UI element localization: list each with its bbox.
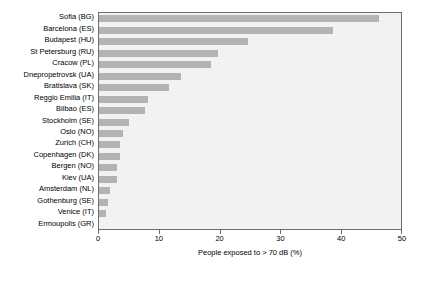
x-tick-label: 20 (215, 234, 223, 243)
bar (99, 119, 129, 126)
bar (99, 187, 110, 194)
bar (99, 176, 117, 183)
x-tick-label: 10 (155, 234, 163, 243)
bar (99, 73, 181, 80)
category-label: Budapest (HU) (0, 36, 94, 44)
category-label: Copenhagen (DK) (0, 151, 94, 159)
bar (99, 141, 120, 148)
category-label: Ermoupolis (GR) (0, 220, 94, 228)
bar (99, 96, 148, 103)
x-tick-label: 50 (398, 234, 406, 243)
x-tick-label: 40 (337, 234, 345, 243)
bar (99, 84, 169, 91)
category-label: Bilbao (ES) (0, 105, 94, 113)
category-label: Bergen (NO) (0, 162, 94, 170)
category-label: Venice (IT) (0, 208, 94, 216)
x-tick-label: 0 (96, 234, 100, 243)
x-tick-label: 30 (276, 234, 284, 243)
bar-chart: Sofia (BG)Barcelona (ES)Budapest (HU)St … (0, 0, 422, 286)
bar (99, 27, 333, 34)
category-label: Stockholm (SE) (0, 117, 94, 125)
category-label: St Petersburg (RU) (0, 48, 94, 56)
category-label: Sofia (BG) (0, 13, 94, 21)
category-label: Bratislava (SK) (0, 82, 94, 90)
bar (99, 15, 379, 22)
bars-layer (99, 13, 401, 229)
category-label: Barcelona (ES) (0, 25, 94, 33)
bar (99, 130, 123, 137)
bar (99, 38, 248, 45)
category-label: Zurich (CH) (0, 139, 94, 147)
x-axis-ticks: 01020304050 (98, 230, 402, 246)
bar (99, 61, 211, 68)
category-label: Kiev (UA) (0, 174, 94, 182)
category-label: Gothenburg (SE) (0, 197, 94, 205)
bar (99, 50, 218, 57)
bar (99, 210, 106, 217)
plot-area (98, 12, 402, 230)
category-axis-labels: Sofia (BG)Barcelona (ES)Budapest (HU)St … (0, 12, 94, 230)
bar (99, 107, 145, 114)
category-label: Cracow (PL) (0, 59, 94, 67)
bar (99, 164, 117, 171)
category-label: Dnepropetrovsk (UA) (0, 71, 94, 79)
bar (99, 153, 120, 160)
x-axis-title: People exposed to > 70 dB (%) (98, 248, 402, 257)
category-label: Reggio Emilia (IT) (0, 94, 94, 102)
category-label: Amsterdam (NL) (0, 185, 94, 193)
bar (99, 199, 108, 206)
category-label: Oslo (NO) (0, 128, 94, 136)
